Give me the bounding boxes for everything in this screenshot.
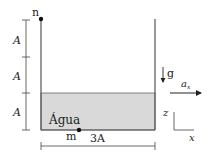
tank-diagram: n m A A A 3A Água g ax z x	[0, 0, 211, 157]
axis-x-label: x	[189, 132, 195, 143]
point-m-label: m	[66, 130, 77, 143]
point-n	[39, 17, 43, 21]
point-m	[77, 128, 81, 132]
axes-icon	[174, 112, 194, 130]
gravity-label: g	[167, 67, 174, 80]
acceleration-label: ax	[181, 78, 191, 90]
fluid-label: Água	[48, 112, 80, 127]
height-dimension	[22, 20, 30, 130]
point-n-label: n	[32, 6, 39, 19]
axis-z-label: z	[162, 107, 169, 118]
height-label-2: A	[12, 70, 21, 83]
width-label: 3A	[90, 132, 106, 145]
height-label-1: A	[12, 34, 21, 47]
height-label-3: A	[12, 106, 21, 119]
